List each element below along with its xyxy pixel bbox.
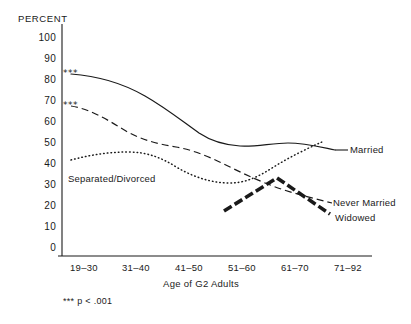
y-tick-30: 30 [26, 180, 56, 190]
x-tick-61-70: 61–70 [281, 263, 309, 273]
x-axis-title: Age of G2 Adults [163, 279, 239, 289]
y-tick-70: 70 [26, 96, 56, 106]
y-tick-60: 60 [26, 117, 56, 127]
x-tick-31-40: 31–40 [122, 263, 150, 273]
footnote-significance: *** p < .001 [63, 297, 112, 306]
y-tick-10: 10 [26, 222, 56, 232]
y-axis-title: PERCENT [18, 14, 68, 24]
series-label-widowed: Widowed [335, 213, 375, 223]
y-tick-40: 40 [26, 159, 56, 169]
significance-marker-married: *** [63, 69, 78, 78]
chart-plot-area [0, 0, 411, 324]
y-tick-20: 20 [26, 201, 56, 211]
series-label-never-married: Never Married [333, 198, 396, 208]
y-tick-50: 50 [26, 138, 56, 148]
series-label-married: Married [350, 145, 384, 155]
significance-marker-never-married: *** [63, 101, 78, 110]
series-label-separated-divorced: Separated/Divorced [68, 174, 156, 184]
y-tick-100: 100 [26, 33, 56, 43]
x-tick-19-30: 19–30 [70, 263, 98, 273]
x-tick-71-92: 71–92 [334, 263, 362, 273]
x-tick-51-60: 51–60 [228, 263, 256, 273]
y-tick-80: 80 [26, 75, 56, 85]
x-tick-41-50: 41–50 [175, 263, 203, 273]
y-tick-0: 0 [26, 243, 56, 253]
series-line-widowed [224, 178, 330, 214]
chart-figure: PERCENT 100 90 80 70 60 50 40 30 20 10 0… [0, 0, 411, 324]
y-tick-90: 90 [26, 54, 56, 64]
series-line-married [71, 74, 335, 150]
